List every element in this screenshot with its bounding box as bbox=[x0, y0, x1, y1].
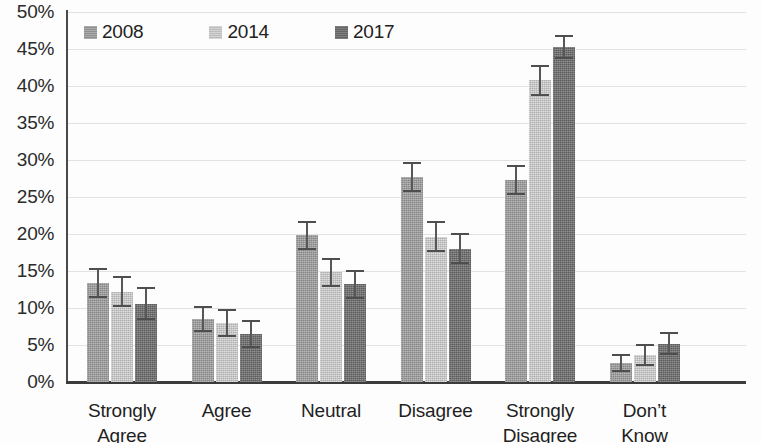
y-axis-tick-label: 10% bbox=[17, 297, 54, 319]
bar-2014-neutral bbox=[320, 272, 342, 382]
y-axis-tick-label: 20% bbox=[17, 223, 54, 245]
error-bar-stem bbox=[644, 344, 646, 366]
error-bar-cap-bottom bbox=[507, 193, 525, 195]
legend-label: 2014 bbox=[227, 21, 268, 43]
legend-item-2008[interactable]: 2008 bbox=[84, 21, 143, 43]
bar-fill bbox=[505, 180, 527, 382]
error-bar bbox=[425, 221, 447, 252]
y-axis: 0%5%10%15%20%25%30%35%40%45%50% bbox=[0, 0, 62, 443]
error-bar-cap-top bbox=[322, 258, 340, 260]
error-bar-cap-bottom bbox=[403, 190, 421, 192]
y-axis-tick-label: 0% bbox=[27, 371, 54, 393]
error-bar-stem bbox=[539, 65, 541, 96]
legend-swatch-icon bbox=[84, 26, 97, 39]
error-bar bbox=[505, 165, 527, 195]
error-bar-stem bbox=[121, 276, 123, 307]
y-axis-tick-label: 15% bbox=[17, 260, 54, 282]
legend-label: 2008 bbox=[102, 21, 143, 43]
y-axis-tick-label: 50% bbox=[17, 1, 54, 23]
bar-2008-neutral bbox=[296, 235, 318, 382]
bars-layer bbox=[66, 0, 750, 443]
y-axis-tick-label: 40% bbox=[17, 75, 54, 97]
error-bar-cap-top bbox=[194, 306, 212, 308]
error-bar-cap-top bbox=[137, 287, 155, 289]
error-bar-cap-top bbox=[660, 332, 678, 334]
error-bar-cap-bottom bbox=[322, 285, 340, 287]
error-bar-stem bbox=[459, 233, 461, 264]
error-bar-stem bbox=[330, 258, 332, 288]
bar-fill bbox=[449, 249, 471, 382]
error-bar-cap-top bbox=[403, 162, 421, 164]
error-bar bbox=[553, 35, 575, 59]
category-label-line: Don’t bbox=[575, 398, 715, 423]
legend-item-2017[interactable]: 2017 bbox=[335, 21, 394, 43]
bar-2008-strongly-disagree bbox=[505, 180, 527, 382]
error-bar-cap-bottom bbox=[531, 94, 549, 96]
error-bar bbox=[240, 320, 262, 348]
y-axis-tick-label: 45% bbox=[17, 38, 54, 60]
error-bar bbox=[529, 65, 551, 96]
error-bar bbox=[216, 309, 238, 337]
survey-bar-chart: 0%5%10%15%20%25%30%35%40%45%50% Strongly… bbox=[0, 0, 762, 443]
category-label-line: Agree bbox=[52, 423, 192, 443]
error-bar-cap-top bbox=[451, 233, 469, 235]
error-bar-cap-top bbox=[218, 309, 236, 311]
error-bar-stem bbox=[668, 332, 670, 356]
error-bar-cap-top bbox=[113, 276, 131, 278]
bar-2017-strongly-disagree bbox=[553, 47, 575, 382]
bar-fill bbox=[296, 235, 318, 382]
category-label-line: Know bbox=[575, 423, 715, 443]
error-bar-cap-top bbox=[346, 270, 364, 272]
error-bar-cap-top bbox=[531, 65, 549, 67]
error-bar-cap-top bbox=[636, 344, 654, 346]
error-bar bbox=[320, 258, 342, 288]
bar-2017-disagree bbox=[449, 249, 471, 382]
error-bar-cap-bottom bbox=[612, 370, 630, 372]
bar-fill bbox=[529, 80, 551, 382]
legend-swatch-icon bbox=[335, 26, 348, 39]
error-bar-cap-bottom bbox=[660, 353, 678, 355]
error-bar-cap-bottom bbox=[89, 296, 107, 298]
bar-fill bbox=[87, 283, 109, 382]
error-bar-stem bbox=[97, 268, 99, 298]
y-axis-tick-label: 25% bbox=[17, 186, 54, 208]
y-axis-tick-label: 5% bbox=[27, 334, 54, 356]
error-bar-stem bbox=[354, 270, 356, 300]
y-axis-tick-label: 30% bbox=[17, 149, 54, 171]
error-bar-stem bbox=[563, 35, 565, 59]
bar-fill bbox=[425, 237, 447, 382]
error-bar-cap-bottom bbox=[427, 250, 445, 252]
bar-2014-strongly-disagree bbox=[529, 80, 551, 382]
error-bar-cap-bottom bbox=[298, 248, 316, 250]
error-bar bbox=[634, 344, 656, 366]
error-bar bbox=[610, 354, 632, 372]
error-bar-stem bbox=[145, 287, 147, 320]
bar-2008-disagree bbox=[401, 177, 423, 382]
bar-2014-disagree bbox=[425, 237, 447, 382]
error-bar bbox=[449, 233, 471, 264]
chart-legend: 200820142017 bbox=[84, 21, 394, 43]
x-axis-category-label: Don’tKnow bbox=[575, 398, 715, 443]
error-bar-cap-top bbox=[427, 221, 445, 223]
error-bar-stem bbox=[202, 306, 204, 333]
error-bar-stem bbox=[515, 165, 517, 195]
error-bar bbox=[401, 162, 423, 192]
error-bar-cap-top bbox=[555, 35, 573, 37]
error-bar-cap-top bbox=[507, 165, 525, 167]
error-bar-cap-bottom bbox=[137, 318, 155, 320]
error-bar-cap-bottom bbox=[113, 305, 131, 307]
error-bar-cap-top bbox=[612, 354, 630, 356]
error-bar-cap-bottom bbox=[555, 57, 573, 59]
y-axis-tick-label: 35% bbox=[17, 112, 54, 134]
error-bar bbox=[344, 270, 366, 300]
bar-2008-strongly-agree bbox=[87, 283, 109, 382]
error-bar bbox=[192, 306, 214, 333]
error-bar bbox=[658, 332, 680, 356]
error-bar-cap-top bbox=[242, 320, 260, 322]
error-bar-cap-bottom bbox=[346, 297, 364, 299]
bar-fill bbox=[553, 47, 575, 382]
error-bar-cap-bottom bbox=[636, 364, 654, 366]
legend-item-2014[interactable]: 2014 bbox=[209, 21, 268, 43]
error-bar-cap-bottom bbox=[194, 330, 212, 332]
plot-area: StronglyAgreeAgreeNeutralDisagreeStrongl… bbox=[66, 0, 750, 443]
